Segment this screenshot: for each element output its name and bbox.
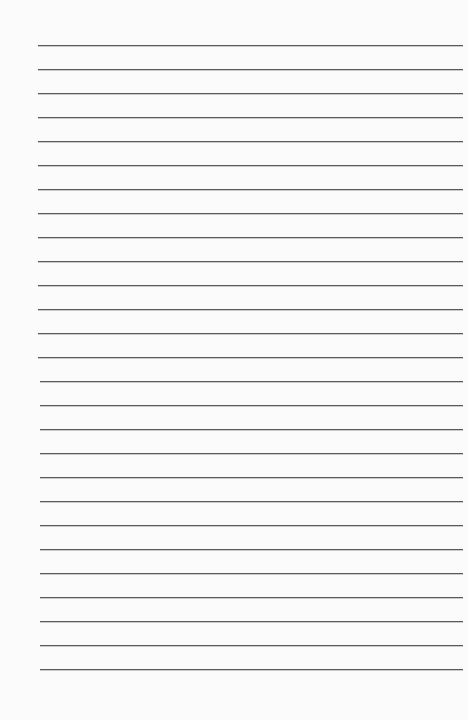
ruled-line <box>40 621 463 622</box>
ruled-line <box>38 213 463 214</box>
ruled-line <box>40 381 463 382</box>
ruled-line <box>38 285 463 286</box>
ruled-line <box>38 93 463 94</box>
ruled-line <box>40 477 463 478</box>
ruled-line <box>38 189 463 190</box>
ruled-line <box>38 333 463 334</box>
ruled-line <box>40 597 463 598</box>
ruled-line <box>38 309 463 310</box>
lined-paper-sheet <box>0 0 468 720</box>
ruled-line <box>40 501 463 502</box>
ruled-line <box>38 165 463 166</box>
ruled-line <box>38 237 463 238</box>
ruled-line <box>40 429 463 430</box>
ruled-line <box>38 117 463 118</box>
ruled-line <box>40 405 463 406</box>
ruled-line <box>40 645 463 646</box>
ruled-line <box>38 357 463 358</box>
ruled-line <box>40 549 463 550</box>
ruled-line <box>40 525 463 526</box>
ruled-line <box>38 69 463 70</box>
ruled-line <box>40 573 463 574</box>
ruled-line <box>40 453 463 454</box>
ruled-line <box>38 261 463 262</box>
ruled-line <box>38 141 463 142</box>
ruled-line <box>38 45 463 46</box>
ruled-line <box>40 669 463 670</box>
